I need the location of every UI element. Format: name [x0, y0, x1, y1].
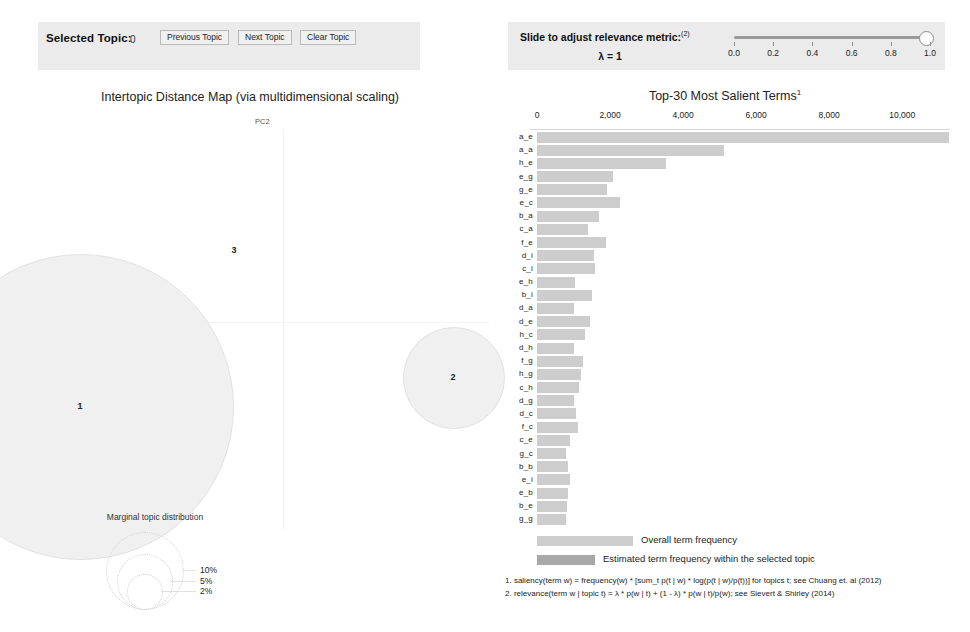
bar-term-label[interactable]: f_g	[505, 356, 533, 365]
bar-overall-frequency[interactable]	[537, 448, 566, 459]
bar-overall-frequency[interactable]	[537, 171, 613, 182]
next-topic-button[interactable]: Next Topic	[238, 30, 292, 45]
bar-overall-frequency[interactable]	[537, 488, 568, 499]
bar-chart-row[interactable]: e_b	[505, 487, 950, 500]
bar-term-label[interactable]: d_c	[505, 409, 533, 418]
bar-term-label[interactable]: f_c	[505, 422, 533, 431]
bar-term-label[interactable]: b_a	[505, 211, 533, 220]
bar-overall-frequency[interactable]	[537, 356, 583, 367]
bar-chart-row[interactable]: e_c	[505, 197, 950, 210]
bar-term-label[interactable]: d_a	[505, 303, 533, 312]
bar-chart-row[interactable]: a_e	[505, 131, 950, 144]
selected-topic-value[interactable]: 0	[130, 34, 136, 45]
bar-chart-x-tick-label: 8,000	[819, 110, 840, 120]
bar-term-label[interactable]: h_g	[505, 369, 533, 378]
bar-term-label[interactable]: c_i	[505, 264, 533, 273]
bar-chart-row[interactable]: d_a	[505, 302, 950, 315]
bar-overall-frequency[interactable]	[537, 514, 566, 525]
bar-chart-row[interactable]: d_h	[505, 342, 950, 355]
bar-chart-row[interactable]: h_c	[505, 329, 950, 342]
bar-overall-frequency[interactable]	[537, 250, 594, 261]
bar-term-label[interactable]: g_c	[505, 449, 533, 458]
bar-chart-row[interactable]: f_c	[505, 421, 950, 434]
bar-chart-row[interactable]: f_g	[505, 355, 950, 368]
bar-overall-frequency[interactable]	[537, 435, 570, 446]
bar-chart-row[interactable]: b_i	[505, 289, 950, 302]
bar-overall-frequency[interactable]	[537, 369, 581, 380]
bar-term-label[interactable]: h_c	[505, 330, 533, 339]
bar-chart-row[interactable]: c_e	[505, 434, 950, 447]
bar-term-label[interactable]: g_g	[505, 514, 533, 523]
bar-chart-row[interactable]: e_i	[505, 474, 950, 487]
bar-chart-row[interactable]: h_g	[505, 368, 950, 381]
previous-topic-button[interactable]: Previous Topic	[160, 30, 229, 45]
topic-number-3[interactable]: 3	[231, 245, 236, 255]
bar-chart-row[interactable]: b_b	[505, 461, 950, 474]
bar-chart-row[interactable]: g_c	[505, 448, 950, 461]
bar-overall-frequency[interactable]	[537, 132, 949, 143]
bar-term-label[interactable]: e_c	[505, 198, 533, 207]
bar-overall-frequency[interactable]	[537, 382, 579, 393]
bar-overall-frequency[interactable]	[537, 422, 578, 433]
bar-chart-row[interactable]: g_g	[505, 513, 950, 526]
bar-term-label[interactable]: d_e	[505, 317, 533, 326]
bar-chart-row[interactable]: d_g	[505, 395, 950, 408]
bar-term-label[interactable]: c_a	[505, 224, 533, 233]
bar-term-label[interactable]: e_b	[505, 488, 533, 497]
topic-number-1[interactable]: 1	[77, 401, 82, 411]
bar-term-label[interactable]: b_i	[505, 290, 533, 299]
bar-term-label[interactable]: d_i	[505, 251, 533, 260]
bar-term-label[interactable]: d_h	[505, 343, 533, 352]
bar-chart-row[interactable]: c_a	[505, 223, 950, 236]
bar-term-label[interactable]: b_e	[505, 501, 533, 510]
bar-chart-title: Top-30 Most Salient Terms1	[505, 88, 945, 103]
bar-term-label[interactable]: a_a	[505, 145, 533, 154]
clear-topic-button[interactable]: Clear Topic	[300, 30, 356, 45]
bar-chart-row[interactable]: c_i	[505, 263, 950, 276]
bar-chart-row[interactable]: c_h	[505, 382, 950, 395]
bar-overall-frequency[interactable]	[537, 224, 588, 235]
bar-term-label[interactable]: g_e	[505, 185, 533, 194]
bar-chart-row[interactable]: d_c	[505, 408, 950, 421]
bar-overall-frequency[interactable]	[537, 184, 607, 195]
bar-chart-row[interactable]: g_e	[505, 184, 950, 197]
bar-overall-frequency[interactable]	[537, 158, 666, 169]
bar-overall-frequency[interactable]	[537, 461, 568, 472]
bar-term-label[interactable]: d_g	[505, 396, 533, 405]
bar-chart-row[interactable]: e_h	[505, 276, 950, 289]
bar-overall-frequency[interactable]	[537, 197, 620, 208]
bar-overall-frequency[interactable]	[537, 237, 606, 248]
bar-overall-frequency[interactable]	[537, 277, 575, 288]
bar-overall-frequency[interactable]	[537, 316, 590, 327]
bar-term-label[interactable]: e_i	[505, 475, 533, 484]
bar-overall-frequency[interactable]	[537, 290, 592, 301]
bar-overall-frequency[interactable]	[537, 145, 724, 156]
bar-term-label[interactable]: f_e	[505, 238, 533, 247]
bar-overall-frequency[interactable]	[537, 501, 567, 512]
bar-overall-frequency[interactable]	[537, 329, 585, 340]
bar-overall-frequency[interactable]	[537, 263, 595, 274]
bar-chart-row[interactable]: e_g	[505, 171, 950, 184]
bar-chart-row[interactable]: h_e	[505, 157, 950, 170]
bar-term-label[interactable]: h_e	[505, 158, 533, 167]
bar-chart-row[interactable]: d_i	[505, 250, 950, 263]
bar-chart-row[interactable]: f_e	[505, 237, 950, 250]
bar-term-label[interactable]: b_b	[505, 462, 533, 471]
bar-overall-frequency[interactable]	[537, 343, 574, 354]
bar-overall-frequency[interactable]	[537, 211, 599, 222]
bar-term-label[interactable]: c_e	[505, 435, 533, 444]
bar-overall-frequency[interactable]	[537, 408, 576, 419]
bar-overall-frequency[interactable]	[537, 395, 574, 406]
topic-number-2[interactable]: 2	[450, 372, 455, 382]
bar-chart-row[interactable]: a_a	[505, 144, 950, 157]
bar-chart-row[interactable]: b_e	[505, 500, 950, 513]
bar-term-label[interactable]: a_e	[505, 132, 533, 141]
bar-term-label[interactable]: e_g	[505, 172, 533, 181]
bar-overall-frequency[interactable]	[537, 474, 570, 485]
bar-term-label[interactable]: c_h	[505, 383, 533, 392]
bar-chart-row[interactable]: d_e	[505, 316, 950, 329]
bar-overall-frequency[interactable]	[537, 303, 574, 314]
bar-term-label[interactable]: e_h	[505, 277, 533, 286]
relevance-slider-track[interactable]	[734, 36, 929, 39]
bar-chart-row[interactable]: b_a	[505, 210, 950, 223]
